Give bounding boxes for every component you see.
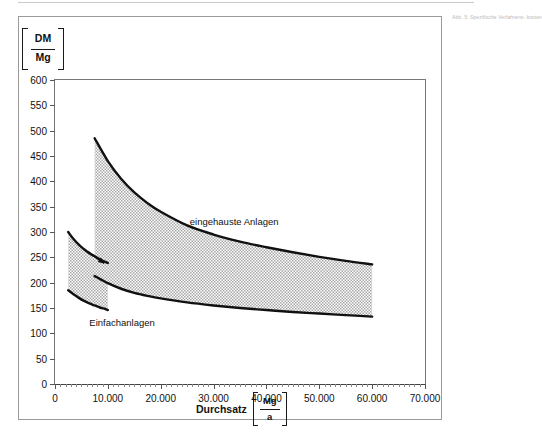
y-tick-label: 500 xyxy=(30,125,47,136)
x-tick-minor xyxy=(314,384,315,387)
x-tick-minor xyxy=(356,384,357,387)
x-tick-minor xyxy=(420,384,421,387)
x-tick-minor xyxy=(224,384,225,387)
y-tick xyxy=(50,181,55,182)
x-unit-numerator: Mg xyxy=(258,395,282,406)
y-tick xyxy=(50,359,55,360)
x-tick-minor xyxy=(71,384,72,387)
x-tick-minor xyxy=(261,384,262,387)
y-tick xyxy=(50,333,55,334)
label-eingehauste-anlagen: eingehauste Anlagen xyxy=(190,216,279,227)
x-tick-minor xyxy=(177,384,178,387)
x-axis-unit-box: Mg a xyxy=(253,392,287,426)
x-axis-title: Durchsatz Mg a xyxy=(196,392,287,426)
x-tick-minor xyxy=(145,384,146,387)
x-tick-minor xyxy=(298,384,299,387)
y-tick xyxy=(50,131,55,132)
x-tick-minor xyxy=(124,384,125,387)
plot-area: 050100150200250300350400450500550600 010… xyxy=(54,79,426,385)
x-tick-minor xyxy=(81,384,82,387)
x-tick-minor xyxy=(76,384,77,387)
x-tick-major xyxy=(161,384,162,389)
y-tick-label: 250 xyxy=(30,252,47,263)
x-tick-label: 50.000 xyxy=(304,393,335,404)
x-tick-minor xyxy=(198,384,199,387)
x-tick-minor xyxy=(330,384,331,387)
x-tick-major xyxy=(55,384,56,389)
y-tick-label: 600 xyxy=(30,75,47,86)
x-tick-minor xyxy=(414,384,415,387)
x-tick-minor xyxy=(140,384,141,387)
x-tick-major xyxy=(266,384,267,389)
x-tick-minor xyxy=(303,384,304,387)
x-tick-minor xyxy=(367,384,368,387)
page-top-divider xyxy=(18,2,474,3)
x-tick-label: 10.000 xyxy=(93,393,124,404)
y-tick xyxy=(50,283,55,284)
x-tick-minor xyxy=(282,384,283,387)
y-tick xyxy=(50,232,55,233)
y-tick-label: 50 xyxy=(36,353,47,364)
x-tick-minor xyxy=(409,384,410,387)
x-tick-minor xyxy=(219,384,220,387)
x-tick-minor xyxy=(66,384,67,387)
y-unit-numerator: DM xyxy=(28,32,58,44)
chart-canvas xyxy=(55,80,425,384)
y-tick xyxy=(50,156,55,157)
y-tick xyxy=(50,257,55,258)
x-tick-major xyxy=(108,384,109,389)
x-tick-minor xyxy=(309,384,310,387)
x-tick-minor xyxy=(235,384,236,387)
x-tick-minor xyxy=(362,384,363,387)
y-tick xyxy=(50,80,55,81)
y-unit-denominator: Mg xyxy=(28,51,58,63)
x-tick-minor xyxy=(404,384,405,387)
x-tick-minor xyxy=(203,384,204,387)
x-tick-label: 0 xyxy=(52,393,58,404)
y-tick-label: 0 xyxy=(41,379,47,390)
x-unit-denominator: a xyxy=(258,411,282,422)
y-tick-label: 100 xyxy=(30,328,47,339)
fraction-bar xyxy=(260,409,280,410)
x-tick-major xyxy=(425,384,426,389)
x-tick-minor xyxy=(277,384,278,387)
x-tick-minor xyxy=(240,384,241,387)
y-tick-label: 450 xyxy=(30,151,47,162)
x-tick-minor xyxy=(187,384,188,387)
x-tick-minor xyxy=(340,384,341,387)
x-tick-major xyxy=(319,384,320,389)
y-tick xyxy=(50,308,55,309)
x-tick-minor xyxy=(377,384,378,387)
y-tick-label: 550 xyxy=(30,100,47,111)
y-tick-label: 350 xyxy=(30,201,47,212)
x-tick-minor xyxy=(383,384,384,387)
x-tick-minor xyxy=(166,384,167,387)
y-tick xyxy=(50,207,55,208)
y-tick-label: 200 xyxy=(30,277,47,288)
x-tick-minor xyxy=(118,384,119,387)
bracket-right-icon xyxy=(282,392,287,426)
x-tick-minor xyxy=(182,384,183,387)
x-tick-minor xyxy=(245,384,246,387)
x-tick-minor xyxy=(229,384,230,387)
x-tick-minor xyxy=(113,384,114,387)
x-tick-minor xyxy=(208,384,209,387)
x-tick-label: 70.000 xyxy=(410,393,441,404)
x-axis-title-text: Durchsatz xyxy=(196,403,247,415)
x-tick-minor xyxy=(171,384,172,387)
x-tick-minor xyxy=(134,384,135,387)
x-tick-minor xyxy=(393,384,394,387)
y-tick-label: 300 xyxy=(30,227,47,238)
band-fill-layer xyxy=(68,138,372,316)
band-fill xyxy=(95,138,373,316)
x-tick-minor xyxy=(155,384,156,387)
bracket-right-icon xyxy=(58,28,64,70)
x-tick-minor xyxy=(103,384,104,387)
x-tick-minor xyxy=(346,384,347,387)
x-tick-label: 20.000 xyxy=(145,393,176,404)
x-tick-minor xyxy=(293,384,294,387)
y-tick xyxy=(50,105,55,106)
x-tick-minor xyxy=(87,384,88,387)
x-tick-minor xyxy=(288,384,289,387)
